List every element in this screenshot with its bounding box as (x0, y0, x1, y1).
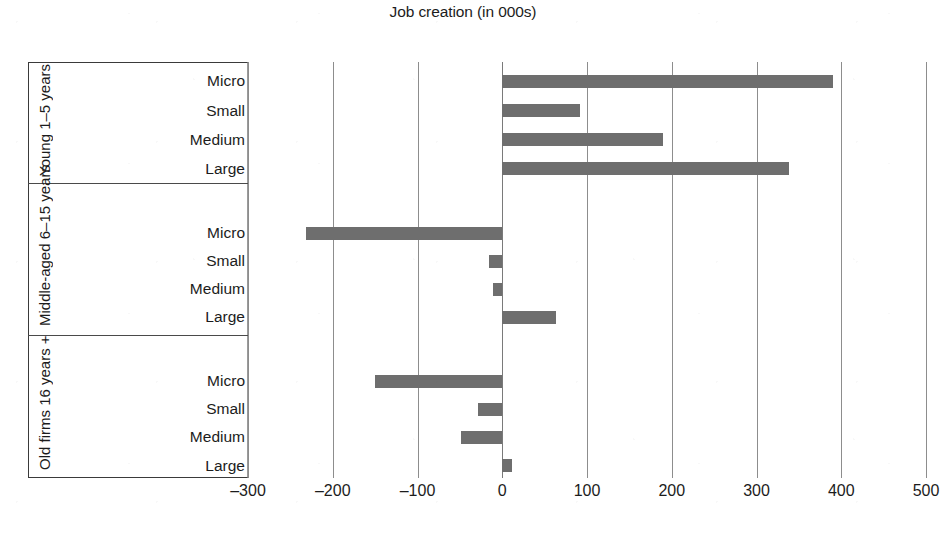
bar-large-g3 (502, 459, 512, 472)
bar-medium-g2 (493, 283, 502, 296)
x-tick-300: 300 (722, 482, 792, 500)
x-tick--100: –100 (383, 482, 453, 500)
group-separator-2 (28, 335, 248, 336)
bar-small-g3 (478, 403, 503, 416)
size-label-young-small: Small (95, 102, 245, 120)
group-separator-1 (28, 183, 248, 184)
group-title-old-firms: Old firms 16 years + (36, 348, 94, 470)
x-tick-400: 400 (806, 482, 876, 500)
gridline-300 (757, 62, 758, 478)
size-label-middle-large: Large (95, 308, 245, 326)
gridline--100 (418, 62, 419, 478)
bar-medium-g3 (461, 431, 503, 444)
bar-small-g1 (502, 104, 580, 117)
x-tick-500: 500 (891, 482, 944, 500)
gridline-200 (672, 62, 673, 478)
size-label-old-medium: Medium (95, 428, 245, 446)
x-tick--200: –200 (298, 482, 368, 500)
bar-micro-g2 (306, 227, 503, 240)
gridline-400 (841, 62, 842, 478)
gridline-100 (587, 62, 588, 478)
x-tick-100: 100 (552, 482, 622, 500)
gridline--200 (333, 62, 334, 478)
size-label-old-micro: Micro (95, 372, 245, 390)
size-label-young-micro: Micro (95, 72, 245, 90)
gridline--300 (248, 62, 249, 478)
size-label-old-small: Small (95, 400, 245, 418)
x-tick--300: –300 (213, 482, 283, 500)
bar-medium-g1 (502, 133, 663, 146)
size-label-middle-micro: Micro (95, 224, 245, 242)
plot-area: –300–200–1000100200300400500 (248, 62, 926, 478)
bar-micro-g3 (375, 375, 502, 388)
chart-title: Job creation (in 000s) (0, 3, 926, 21)
gridline-0 (502, 62, 503, 478)
group-title-young: Young 1–5 years (36, 70, 94, 176)
size-label-old-large: Large (95, 457, 245, 475)
bar-large-g2 (502, 311, 555, 324)
bar-small-g2 (489, 255, 503, 268)
size-label-young-medium: Medium (95, 131, 245, 149)
size-label-young-large: Large (95, 160, 245, 178)
bar-micro-g1 (502, 75, 833, 88)
gridline-500 (926, 62, 927, 478)
size-label-middle-small: Small (95, 252, 245, 270)
size-label-middle-medium: Medium (95, 280, 245, 298)
bar-large-g1 (502, 162, 788, 175)
x-tick-200: 200 (637, 482, 707, 500)
group-title-middle-aged: Middle-aged 6–15 years (36, 196, 94, 326)
x-tick-0: 0 (467, 482, 537, 500)
